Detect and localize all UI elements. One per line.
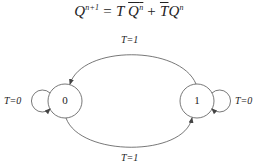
self-loop-1 — [212, 90, 231, 112]
state-node-1-label: 1 — [187, 94, 207, 106]
edge-label-0-to-1: T=1 — [121, 152, 138, 163]
state-node-0-label: 0 — [55, 94, 75, 106]
transition-1-to-0 — [70, 55, 196, 84]
self-loop-0 — [31, 90, 50, 112]
edge-label-self-1: T=0 — [235, 95, 252, 106]
edge-label-1-to-0: T=1 — [121, 34, 138, 45]
state-diagram-figure: Qn+1 = T Qn + TQn 0 1 T=0 T=0 T=1 T=1 — [0, 0, 258, 166]
transition-0-to-1 — [66, 118, 192, 147]
edge-label-self-0: T=0 — [4, 95, 21, 106]
diagram-canvas — [0, 0, 258, 166]
